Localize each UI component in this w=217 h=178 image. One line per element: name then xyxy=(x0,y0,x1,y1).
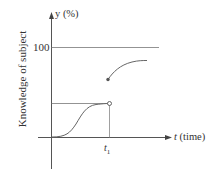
t1-subscript: 1 xyxy=(107,148,111,156)
x-axis-arrow-icon xyxy=(165,135,172,140)
learning-curve-upper xyxy=(108,61,147,80)
x-axis-unit: t (time) xyxy=(174,132,205,143)
y-tick-100: 100 xyxy=(33,42,50,53)
knowledge-diagram: Knowledge of subject 100 y (%) t (time) … xyxy=(0,0,217,178)
learning-curve-lower xyxy=(52,104,108,138)
filled-circle-marker xyxy=(106,78,109,81)
y-axis-label: Knowledge of subject xyxy=(17,31,28,128)
open-circle-marker xyxy=(108,102,112,106)
x-axis-unit-text: (time) xyxy=(180,131,206,142)
x-tick-t1: t1 xyxy=(104,143,110,156)
y-axis-unit: y (%) xyxy=(55,9,79,20)
x-axis-var: t xyxy=(174,131,177,142)
y-axis-arrow-icon xyxy=(49,12,54,19)
